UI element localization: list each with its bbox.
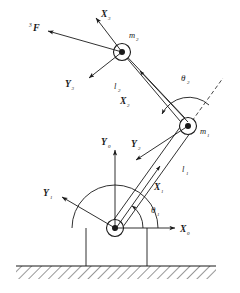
theta2-arc [162, 97, 209, 114]
label-y1: Y 1 [43, 188, 53, 200]
label-l2-symbol: l [114, 81, 117, 91]
label-x0-subscript: 0 [187, 231, 190, 236]
axis-y2-arrow [136, 126, 188, 160]
label-force-symbol: F [32, 22, 40, 33]
label-x1-subscript: 1 [161, 189, 164, 194]
label-m1-subscript: 1 [207, 133, 210, 138]
label-force: 3 F [28, 22, 40, 33]
label-m1-symbol: m [200, 126, 206, 136]
label-y3: Y 3 [65, 79, 75, 91]
label-m2-subscript: 2 [136, 37, 139, 42]
label-x3-symbol: X [100, 9, 108, 19]
label-x2-subscript: 2 [127, 103, 130, 108]
link-2 [119, 48, 191, 133]
link-1-dashed-extension [192, 78, 223, 121]
axis-y3-arrow [89, 52, 122, 78]
label-y2: Y 2 [131, 139, 141, 151]
ground-hatching [16, 266, 216, 279]
label-x3: X 3 [100, 9, 111, 21]
axis-y1-arrow [62, 197, 115, 228]
link-1 [110, 123, 192, 232]
label-y0-subscript: 0 [108, 144, 111, 149]
label-theta2: θ 2 [181, 73, 190, 85]
label-theta2-symbol: θ [181, 73, 186, 83]
theta1-arc [132, 206, 143, 228]
label-theta1-subscript: 1 [157, 212, 160, 217]
label-force-superscript: 3 [28, 22, 32, 28]
label-theta1: θ 1 [151, 205, 160, 217]
ground [16, 266, 216, 279]
label-theta1-symbol: θ [151, 205, 156, 215]
label-l2-subscript: 2 [118, 88, 121, 93]
label-x0: X 0 [179, 224, 190, 236]
label-x1: X 1 [153, 182, 164, 194]
label-y1-symbol: Y [43, 188, 50, 198]
manipulator-diagram: 3 F X 3 Y 3 m 2 l 2 X 2 θ [0, 0, 240, 293]
label-m1: m 1 [200, 126, 210, 138]
label-m2-symbol: m [129, 30, 135, 40]
label-theta2-subscript: 2 [187, 80, 190, 85]
force-vector-arrow [48, 31, 122, 52]
figure-canvas: 3 F X 3 Y 3 m 2 l 2 X 2 θ [0, 0, 240, 293]
label-l2: l 2 [114, 81, 121, 93]
label-l1-symbol: l [182, 164, 185, 174]
label-y1-subscript: 1 [50, 195, 53, 200]
label-y3-subscript: 3 [72, 86, 75, 91]
label-m2: m 2 [129, 30, 139, 42]
label-x2-symbol: X [119, 96, 127, 106]
label-x3-subscript: 3 [108, 16, 111, 21]
axis-x3-arrow [96, 18, 122, 52]
label-l1-subscript: 1 [186, 171, 189, 176]
label-y2-subscript: 2 [138, 146, 141, 151]
label-l1: l 1 [182, 164, 189, 176]
label-x1-symbol: X [153, 182, 161, 192]
label-x2: X 2 [119, 96, 130, 108]
axis-x1-arrow [114, 166, 160, 231]
label-y2-symbol: Y [131, 139, 138, 149]
link-1-edge-upper [110, 123, 183, 225]
label-y0: Y 0 [101, 137, 111, 149]
label-x0-symbol: X [179, 224, 187, 234]
label-y0-symbol: Y [101, 137, 108, 147]
